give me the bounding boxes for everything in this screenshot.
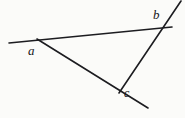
vertex-label-a: a bbox=[28, 44, 35, 57]
vertex-label-b: b bbox=[153, 8, 160, 21]
vertex-label-c: c bbox=[124, 87, 129, 99]
geometry-figure: a b c bbox=[0, 0, 185, 118]
